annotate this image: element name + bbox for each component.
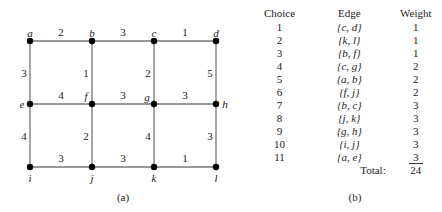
vertex-d <box>213 38 219 44</box>
vertex-label: k <box>152 173 157 184</box>
table-row: 10{i, j}3 <box>250 138 442 151</box>
edge-weight-label: 1 <box>182 153 188 164</box>
cell-edge: {a, e} <box>309 151 390 164</box>
cell-weight: 1 <box>390 34 442 47</box>
cell-weight: 1 <box>390 47 442 60</box>
edge-weight-label: 4 <box>21 130 27 141</box>
table-row: 6{f, j}2 <box>250 86 442 99</box>
vertex-g <box>151 101 157 107</box>
total-row: Total:24 <box>250 164 442 177</box>
vertex-label: c <box>152 28 157 39</box>
table-row: 11{a, e}3 <box>250 151 442 164</box>
spanning-tree-table: Choice Edge Weight 1{c, d}12{k, l}13{b, … <box>250 5 442 177</box>
cell-choice: 5 <box>250 73 309 86</box>
edge-weight-label: 3 <box>182 90 188 101</box>
table-row: 9{g, h}3 <box>250 125 442 138</box>
cell-choice: 9 <box>250 125 309 138</box>
edge-weight-label: 3 <box>58 153 64 164</box>
cell-edge: {c, g} <box>309 60 390 73</box>
cell-edge: {c, d} <box>309 21 390 34</box>
cell-edge: {g, h} <box>309 125 390 138</box>
edge-weight-label: 2 <box>145 67 151 78</box>
edge-weight-label: 3 <box>207 130 213 141</box>
edge-weight-label: 3 <box>120 27 126 38</box>
vertex-label: l <box>214 173 217 184</box>
cell-choice: 7 <box>250 99 309 112</box>
cell-edge: {k, l} <box>309 34 390 47</box>
vertex-label: b <box>89 28 95 39</box>
vertex-f <box>89 101 95 107</box>
vertex-k <box>151 164 157 170</box>
vertex-label: f <box>84 91 87 102</box>
vertex-label: j <box>90 173 93 184</box>
vertex-j <box>89 164 95 170</box>
table-row: 7{b, c}3 <box>250 99 442 112</box>
vertex-a <box>27 38 33 44</box>
edge-weight-label: 2 <box>58 27 64 38</box>
edge-weight-label: 3 <box>120 90 126 101</box>
cell-edge: {b, f} <box>309 47 390 60</box>
weighted-graph: (a) 23131254334243331abcdefghijkl <box>0 0 240 212</box>
cell-choice: 10 <box>250 138 309 151</box>
vertex-label: d <box>213 28 219 39</box>
cell-weight: 2 <box>390 86 442 99</box>
graph-caption: (a) <box>117 191 129 203</box>
table-header-row: Choice Edge Weight <box>250 5 442 21</box>
cell-choice: 11 <box>250 151 309 164</box>
edge-weight-label: 1 <box>182 27 188 38</box>
cell-weight: 3 <box>390 99 442 112</box>
cell-weight: 2 <box>390 60 442 73</box>
cell-weight: 2 <box>390 73 442 86</box>
vertex-label: g <box>144 92 150 103</box>
edge-weight-label: 5 <box>207 67 213 78</box>
cell-edge: {f, j} <box>309 86 390 99</box>
cell-weight: 3 <box>390 138 442 151</box>
cell-edge: {i, j} <box>309 138 390 151</box>
cell-choice: 2 <box>250 34 309 47</box>
edge-weight-label: 2 <box>83 130 89 141</box>
edge-weight-label: 3 <box>120 153 126 164</box>
cell-weight: 3 <box>390 125 442 138</box>
header-weight: Weight <box>390 5 442 21</box>
vertex-label: a <box>27 28 33 39</box>
table-row: 2{k, l}1 <box>250 34 442 47</box>
edge-weight-label: 4 <box>58 90 64 101</box>
cell-weight: 3 <box>390 112 442 125</box>
vertex-e <box>27 101 33 107</box>
vertex-label: h <box>222 99 228 110</box>
vertex-i <box>27 164 33 170</box>
table-row: 8{j, k}3 <box>250 112 442 125</box>
vertex-label: i <box>28 173 31 184</box>
cell-choice: 3 <box>250 47 309 60</box>
table-row: 3{b, f}1 <box>250 47 442 60</box>
vertex-h <box>213 101 219 107</box>
cell-edge: {a, b} <box>309 73 390 86</box>
last-weight: 3 <box>409 151 423 164</box>
total-label: Total: <box>309 164 390 177</box>
cell-weight: 1 <box>390 21 442 34</box>
table-row: 1{c, d}1 <box>250 21 442 34</box>
table-row: 5{a, b}2 <box>250 73 442 86</box>
cell-weight: 3 <box>390 151 442 164</box>
cell-choice: 4 <box>250 60 309 73</box>
total-value: 24 <box>390 164 442 177</box>
vertex-l <box>213 164 219 170</box>
cell-choice: 8 <box>250 112 309 125</box>
cell-edge: {j, k} <box>309 112 390 125</box>
edge-weight-label: 3 <box>21 67 27 78</box>
vertex-label: e <box>20 99 25 110</box>
header-edge: Edge <box>309 5 390 21</box>
cell-choice: 6 <box>250 86 309 99</box>
edge-weight-label: 1 <box>83 67 89 78</box>
table-caption: (b) <box>349 191 362 203</box>
vertex-b <box>89 38 95 44</box>
header-choice: Choice <box>250 5 309 21</box>
cell-choice: 1 <box>250 21 309 34</box>
edge-weight-label: 4 <box>145 130 151 141</box>
table-row: 4{c, g}2 <box>250 60 442 73</box>
cell-edge: {b, c} <box>309 99 390 112</box>
vertex-c <box>151 38 157 44</box>
